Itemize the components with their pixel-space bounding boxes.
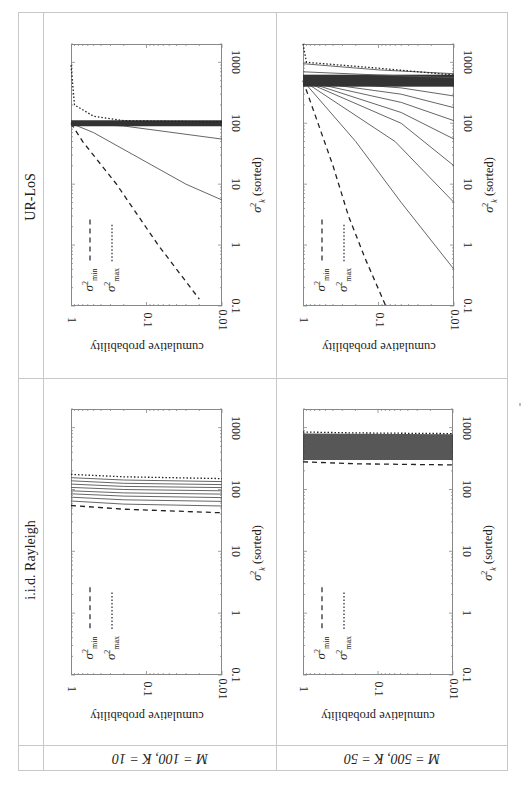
curve-sorted-k-2 (303, 81, 454, 270)
prob-tick-label: 0.01 (446, 679, 461, 700)
table-border-bottom (18, 770, 508, 771)
axis-label-sigma-sorted: σ2k (sorted) (249, 525, 267, 581)
curve--max (71, 65, 222, 122)
sigma-tick-label: 1 (228, 242, 243, 248)
plot-canvas (303, 44, 454, 306)
plot-rayleigh-m100: σ2minσ2max0.1110100100010.10.01cumulativ… (71, 409, 222, 675)
column-header-ur-los: UR-LoS (23, 173, 39, 220)
curve--min (303, 462, 453, 465)
prob-tick-label: 0.1 (139, 313, 154, 328)
curve-sorted-k-4 (303, 81, 454, 166)
prob-tick-label: 1 (64, 317, 79, 323)
curve--min (71, 506, 222, 513)
sigma-tick-label: 0.1 (460, 299, 475, 314)
prob-tick-label: 0.01 (215, 679, 230, 700)
sigma-tick-label: 100 (459, 480, 474, 498)
axis-label-cumulative-probability: cumulative probability (90, 339, 204, 354)
curve-sorted-k-49 (303, 64, 454, 74)
axis-label-cumulative-probability: cumulative probability (322, 339, 436, 354)
table-border-left (18, 12, 19, 771)
axis-label-sigma-sorted: σ2k (sorted) (249, 158, 267, 214)
axis-label-cumulative-probability: cumulative probability (321, 708, 435, 723)
plot-urlos-m500: σ2minσ2max0.1110100100010.10.01cumulativ… (303, 44, 454, 306)
plot-canvas (71, 44, 222, 306)
legend-sigma-max: σ2max (335, 268, 353, 292)
curve-sorted-k-2 (71, 501, 222, 506)
plot-frame (72, 410, 222, 675)
header-column-divider (43, 12, 44, 771)
axis-label-cumulative-probability: cumulative probability (90, 708, 204, 723)
curve-sorted-k-9 (71, 478, 222, 482)
sigma-tick-label: 1000 (228, 50, 243, 74)
row-divider (18, 378, 508, 379)
curve-sorted-k-4 (71, 494, 222, 498)
legend-sigma-min: σ2min (81, 637, 99, 660)
curve-sorted-k-5 (71, 491, 222, 494)
curve-sorted-k-3 (303, 81, 454, 203)
curve-sorted-k-3 (71, 497, 222, 501)
row-header-m500-k50: M = 500, K = 50 (344, 750, 440, 766)
prob-tick-label: 0.1 (371, 682, 386, 697)
plot-canvas (71, 409, 222, 675)
legend-sigma-max: σ2max (335, 636, 353, 660)
axis-label-sigma-sorted: σ2k (sorted) (481, 158, 499, 214)
sigma-tick-label: 100 (460, 114, 475, 132)
footer-divider (18, 745, 508, 746)
legend-sigma-max: σ2max (103, 268, 121, 292)
sigma-tick-label: 1 (460, 242, 475, 248)
column-divider (276, 12, 277, 771)
sigma-tick-label: 1000 (459, 416, 474, 440)
row-header-m100-k10: M = 100, K = 10 (112, 750, 208, 766)
prob-tick-label: 1 (64, 686, 79, 692)
sigma-tick-label: 1 (228, 610, 243, 616)
plot-frame (72, 45, 222, 306)
table-border-right (507, 12, 508, 771)
sigma-tick-label: 0.1 (459, 668, 474, 683)
plot-rayleigh-m500: σ2minσ2max0.1110100100010.10.01cumulativ… (303, 409, 453, 675)
column-header-iid-rayleigh: i.i.d. Rayleigh (23, 520, 39, 599)
curve--max (71, 474, 222, 478)
plot-canvas (303, 409, 453, 675)
prob-tick-label: 0.1 (139, 682, 154, 697)
curve-sorted-k-6 (303, 81, 454, 121)
table-border-top (18, 12, 508, 13)
curve-sorted-k-6 (71, 487, 222, 490)
curve-sorted-k-2 (71, 123, 222, 200)
sigma-tick-label: 0.1 (228, 299, 243, 314)
sigma-tick-label: 0.1 (228, 668, 243, 683)
prob-tick-label: 0.01 (447, 310, 462, 331)
legend-sigma-min: σ2min (313, 637, 331, 660)
sigma-tick-label: 100 (228, 114, 243, 132)
stray-mark (519, 403, 521, 406)
sigma-tick-label: 10 (459, 545, 474, 557)
plot-urlos-m100: σ2minσ2max0.1110100100010.10.01cumulativ… (71, 44, 222, 306)
prob-tick-label: 1 (296, 317, 311, 323)
sigma-tick-label: 10 (228, 545, 243, 557)
prob-tick-label: 1 (296, 686, 311, 692)
sigma-tick-label: 1000 (460, 50, 475, 74)
legend-sigma-min: σ2min (313, 268, 331, 291)
curve--max (303, 432, 453, 434)
axis-label-sigma-sorted: σ2k (sorted) (480, 525, 498, 581)
sigma-tick-label: 10 (460, 178, 475, 190)
legend-sigma-min: σ2min (81, 268, 99, 291)
sigma-tick-label: 1000 (228, 416, 243, 440)
sigma-tick-label: 1 (459, 610, 474, 616)
sigma-tick-label: 10 (228, 178, 243, 190)
prob-tick-label: 0.01 (215, 310, 230, 331)
sigma-tick-label: 100 (228, 480, 243, 498)
prob-tick-label: 0.1 (371, 313, 386, 328)
legend-sigma-max: σ2max (103, 636, 121, 660)
